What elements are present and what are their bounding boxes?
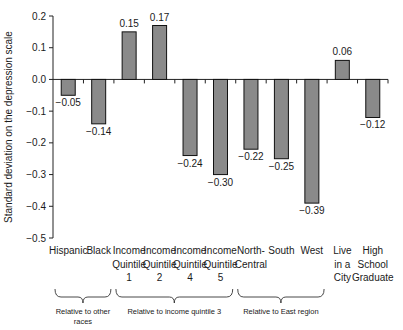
category-label: Live (333, 245, 352, 256)
group-braces: Relative to otherracesRelative to income… (55, 289, 324, 326)
category-labels: HispanicBlackIncomeQuintile1IncomeQuinti… (49, 245, 394, 283)
y-axis: 0.20.10.0−0.1−0.2−0.3−0.4−0.5 (26, 11, 53, 244)
bar (92, 79, 106, 123)
y-tick-label: −0.4 (26, 201, 46, 212)
bar-chart: Standard deviation on the depression sca… (0, 0, 403, 330)
group-brace (238, 289, 324, 303)
category-label: Income (204, 245, 237, 256)
bar-value-label: −0.25 (269, 161, 295, 172)
y-tick-label: 0.2 (32, 11, 46, 22)
bar (183, 79, 197, 155)
bar-value-label: −0.39 (299, 205, 325, 216)
category-label: 1 (126, 272, 132, 283)
y-tick-label: −0.5 (26, 233, 46, 244)
bar-value-label: −0.30 (208, 177, 234, 188)
y-tick-label: −0.1 (26, 106, 46, 117)
bar-value-label: −0.24 (177, 158, 203, 169)
category-label: 4 (187, 272, 193, 283)
bar (305, 79, 319, 203)
y-axis-label: Standard deviation on the depression sca… (3, 31, 14, 223)
category-label: High (362, 245, 383, 256)
category-label: 2 (157, 272, 163, 283)
bar (61, 79, 75, 95)
category-label: South (268, 245, 294, 256)
category-label: Quintile (143, 259, 177, 270)
group-brace (116, 289, 233, 303)
category-label: Income (113, 245, 146, 256)
category-label: 5 (218, 272, 224, 283)
group-brace (55, 289, 111, 303)
category-label: Central (235, 259, 267, 270)
bar-value-label: 0.06 (333, 46, 353, 57)
bar-value-label: −0.12 (360, 119, 386, 130)
bar-value-label: −0.14 (86, 126, 112, 137)
bar (366, 79, 380, 117)
category-label: Graduate (352, 272, 394, 283)
bar (244, 79, 258, 149)
category-label: in a (334, 259, 351, 270)
y-axis-title: Standard deviation on the depression sca… (3, 31, 14, 223)
bar (335, 60, 349, 79)
group-label: Relative to income quintile 3 (127, 307, 221, 316)
y-tick-label: −0.3 (26, 169, 46, 180)
bar-value-label: 0.15 (119, 18, 139, 29)
bar (122, 32, 136, 80)
category-label: Quintile (173, 259, 207, 270)
bar (274, 79, 288, 158)
category-label: North- (237, 245, 265, 256)
category-label: City (334, 272, 351, 283)
y-tick-label: −0.2 (26, 137, 46, 148)
y-tick-label: 0.0 (32, 74, 46, 85)
bar (153, 26, 167, 80)
bar-value-label: 0.17 (150, 12, 170, 23)
category-label: School (357, 259, 388, 270)
category-label: Hispanic (49, 245, 87, 256)
category-label: Black (86, 245, 111, 256)
bar (214, 79, 228, 174)
group-label: Relative to East region (243, 307, 318, 316)
category-label: West (301, 245, 324, 256)
bar-value-label: −0.05 (56, 97, 82, 108)
category-label: Quintile (204, 259, 238, 270)
group-label: races (74, 317, 93, 326)
category-label: Quintile (112, 259, 146, 270)
bar-value-label: −0.22 (238, 151, 264, 162)
category-label: Income (174, 245, 207, 256)
y-tick-label: 0.1 (32, 42, 46, 53)
category-label: Income (143, 245, 176, 256)
group-label: Relative to other (56, 307, 111, 316)
